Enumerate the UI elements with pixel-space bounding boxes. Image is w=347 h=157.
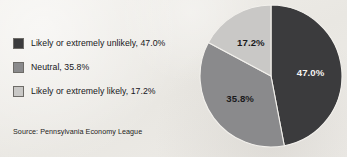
legend-label-likely: Likely or extremely likely, 17.2% <box>31 86 156 97</box>
legend-item-neutral[interactable]: Neutral, 35.8% <box>13 55 193 79</box>
legend-swatch-neutral <box>13 62 24 73</box>
legend-swatch-unlikely <box>13 38 24 49</box>
pie-chart-svg: 47.0% 35.8% 17.2% <box>199 4 343 148</box>
chart-legend: Likely or extremely unlikely, 47.0% Neut… <box>13 31 193 103</box>
pie-chart: 47.0% 35.8% 17.2% <box>199 4 343 148</box>
legend-item-likely[interactable]: Likely or extremely likely, 17.2% <box>13 79 193 103</box>
source-note: Source: Pennsylvania Economy League <box>13 127 142 136</box>
pie-label-neutral: 35.8% <box>226 93 254 104</box>
legend-item-unlikely[interactable]: Likely or extremely unlikely, 47.0% <box>13 31 193 55</box>
pie-label-unlikely: 47.0% <box>297 67 325 78</box>
legend-swatch-likely <box>13 86 24 97</box>
pie-label-likely: 17.2% <box>237 37 265 48</box>
legend-label-unlikely: Likely or extremely unlikely, 47.0% <box>31 38 165 49</box>
chart-page: Likely or extremely unlikely, 47.0% Neut… <box>0 0 347 157</box>
legend-label-neutral: Neutral, 35.8% <box>31 62 89 73</box>
